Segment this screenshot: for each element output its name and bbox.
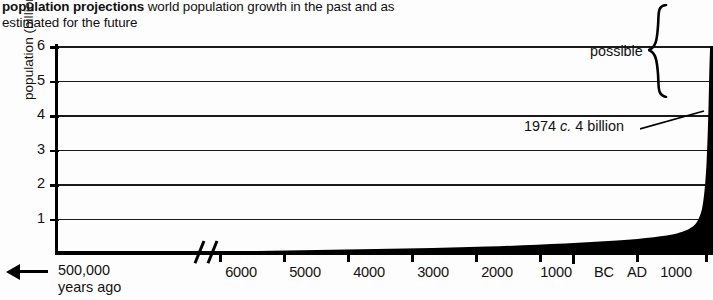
x-tick-3000 [411, 253, 414, 262]
annotation-possible-label: possible [590, 43, 643, 59]
annotation-1974-leader-line [640, 108, 706, 134]
y-tick-label-4: 4 [19, 107, 45, 121]
left-arrow-icon [6, 264, 48, 280]
x-label-bc: BC [594, 264, 614, 280]
x-tick-1000-ad [636, 253, 639, 262]
x-label-1000-bc: 1000 [540, 264, 572, 280]
x-tick-1000-bc [539, 253, 542, 262]
x-tick-2000-ad [705, 253, 708, 262]
annotation-1974-value: 4 billion [571, 118, 624, 134]
y-tick-label-3: 3 [19, 142, 45, 156]
x-axis-left-note-line2: years ago [58, 279, 121, 296]
x-tick-4000 [347, 253, 350, 262]
chart-figure: population projections world population … [0, 0, 713, 300]
annotation-1974-year: 1974 [524, 118, 560, 134]
x-label-4000: 4000 [353, 264, 385, 280]
x-label-1000-ad: 1000 [660, 264, 692, 280]
annotation-1974-circa: c. [560, 118, 571, 134]
annotation-possible-brace [648, 4, 674, 98]
annotation-1974-label: 1974 c. 4 billion [524, 118, 624, 134]
y-tick-label-2: 2 [19, 176, 45, 190]
x-label-3000: 3000 [417, 264, 449, 280]
x-label-ad: AD [627, 264, 647, 280]
x-tick-5000 [283, 253, 286, 262]
x-tick-bc-ad-boundary [572, 253, 575, 264]
y-tick-label-1: 1 [19, 211, 45, 225]
x-axis-break-icon [196, 240, 226, 264]
x-axis-left-note-line1: 500,000 [58, 262, 121, 279]
figure-caption: population projections world population … [2, 0, 432, 31]
population-area-series [57, 46, 713, 255]
x-tick-2000 [475, 253, 478, 262]
x-label-6000: 6000 [225, 264, 257, 280]
y-axis-title: population (billions) [21, 0, 36, 100]
x-label-5000: 5000 [289, 264, 321, 280]
x-axis-left-note: 500,000 years ago [58, 262, 121, 295]
x-label-2000: 2000 [481, 264, 513, 280]
